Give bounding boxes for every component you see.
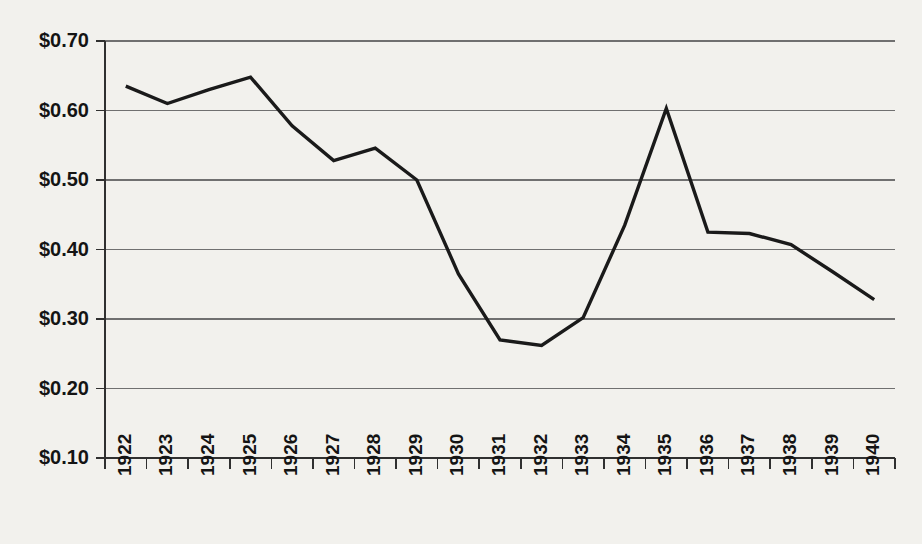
- x-tick-label-7: 1929: [405, 434, 426, 476]
- y-tick-label-6: $0.70: [39, 29, 89, 51]
- x-tick-label-5: 1927: [322, 434, 343, 476]
- y-tick-label-5: $0.60: [39, 99, 89, 121]
- x-tick-label-1: 1923: [155, 434, 176, 476]
- chart-container: $0.10$0.20$0.30$0.40$0.50$0.60$0.70 1922…: [0, 0, 922, 544]
- x-tick-label-4: 1926: [280, 434, 301, 476]
- x-tick-label-17: 1939: [821, 434, 842, 476]
- x-tick-label-11: 1933: [571, 434, 592, 476]
- x-tick-label-6: 1928: [363, 434, 384, 476]
- line-chart: $0.10$0.20$0.30$0.40$0.50$0.60$0.70 1922…: [0, 0, 922, 544]
- x-tick-label-16: 1938: [779, 434, 800, 476]
- x-tick-label-15: 1937: [737, 434, 758, 476]
- x-tick-label-3: 1925: [239, 433, 260, 476]
- x-tick-label-14: 1936: [696, 434, 717, 476]
- y-tick-label-0: $0.10: [39, 446, 89, 468]
- x-tick-label-8: 1930: [446, 434, 467, 476]
- y-tick-label-1: $0.20: [39, 377, 89, 399]
- x-tick-label-9: 1931: [488, 433, 509, 476]
- x-tick-label-12: 1934: [613, 433, 634, 476]
- x-tick-label-2: 1924: [197, 433, 218, 476]
- y-tick-label-4: $0.50: [39, 168, 89, 190]
- x-tick-label-13: 1935: [654, 433, 675, 476]
- x-tick-label-10: 1932: [530, 434, 551, 476]
- x-tick-label-18: 1940: [862, 434, 883, 476]
- x-tick-label-0: 1922: [114, 434, 135, 476]
- y-tick-label-3: $0.40: [39, 238, 89, 260]
- y-tick-label-2: $0.30: [39, 307, 89, 329]
